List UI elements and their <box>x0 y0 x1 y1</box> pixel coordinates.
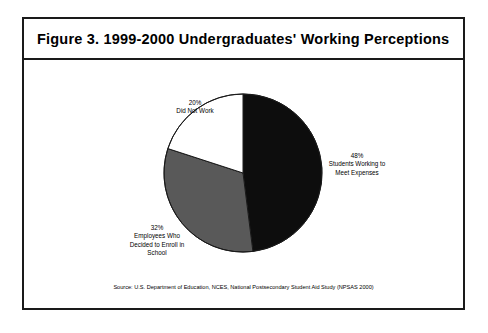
pie-label-enroll-school-line2: Decided to Enroll in <box>92 241 222 249</box>
pie-label-meet-expenses: 48% Students Working to Meet Expenses <box>292 152 422 177</box>
pie-label-enroll-school-line1: Employees Who <box>92 232 222 240</box>
pie-label-enroll-school: 32% Employees Who Decided to Enroll in S… <box>92 224 222 258</box>
pie-label-did-not-work: 20% Did Not Work <box>150 99 240 116</box>
pie-label-meet-expenses-line2: Meet Expenses <box>292 169 422 177</box>
pie-label-enroll-school-percent: 32% <box>92 224 222 232</box>
figure-title-bar: Figure 3. 1999-2000 Undergraduates' Work… <box>24 19 463 60</box>
pie-label-did-not-work-text: Did Not Work <box>150 107 240 115</box>
chart-plot-area: 20% Did Not Work 48% Students Working to… <box>24 60 463 310</box>
page-title: Figure 3. 1999-2000 Undergraduates' Work… <box>24 31 449 47</box>
pie-chart <box>24 60 467 310</box>
pie-label-meet-expenses-line1: Students Working to <box>292 160 422 168</box>
figure-frame: Figure 3. 1999-2000 Undergraduates' Work… <box>22 17 465 310</box>
pie-label-enroll-school-line3: School <box>92 249 222 257</box>
source-note: Source: U.S. Department of Education, NC… <box>24 284 463 290</box>
pie-label-meet-expenses-percent: 48% <box>292 152 422 160</box>
pie-label-did-not-work-percent: 20% <box>150 99 240 107</box>
